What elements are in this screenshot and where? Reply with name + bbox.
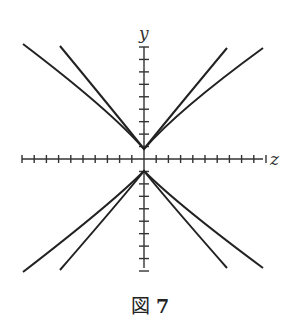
caption-number: 7	[156, 295, 169, 317]
y-axis-label: y	[138, 23, 149, 43]
figure-caption: 図 7	[0, 291, 300, 318]
caption-prefix: 図	[131, 295, 150, 317]
hyperbola-diagram: z y	[0, 0, 300, 326]
x-axis-label: z	[269, 149, 280, 169]
